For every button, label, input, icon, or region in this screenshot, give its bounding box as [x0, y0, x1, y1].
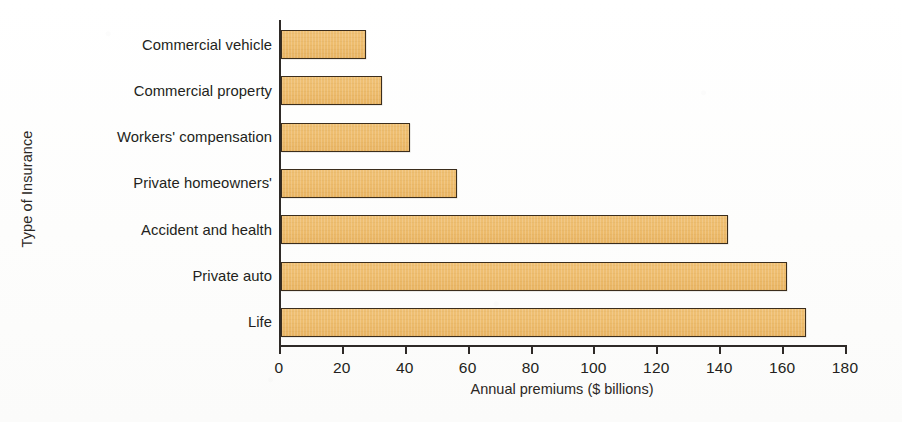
x-tick-20	[342, 345, 344, 354]
bar-commercial-property	[281, 76, 382, 105]
x-tick-40	[405, 345, 407, 354]
plot-area	[279, 20, 845, 345]
x-tick-160	[782, 345, 784, 354]
category-label-4: Accident and health	[40, 222, 272, 238]
bar-private-auto	[281, 262, 787, 291]
x-tick-label-80: 80	[501, 359, 561, 377]
bar-life	[281, 308, 806, 337]
x-tick-label-40: 40	[375, 359, 435, 377]
category-label-5: Private auto	[40, 268, 272, 284]
category-label-0: Commercial vehicle	[40, 37, 272, 53]
x-axis-title: Annual premiums ($ billions)	[279, 381, 845, 397]
x-tick-label-160: 160	[752, 359, 812, 377]
x-tick-140	[719, 345, 721, 354]
bar-accident-and-health	[281, 215, 728, 244]
category-label-1: Commercial property	[40, 83, 272, 99]
category-label-3: Private homeowners'	[40, 175, 272, 191]
x-tick-180	[845, 345, 847, 354]
x-tick-60	[468, 345, 470, 354]
x-axis: 020406080100120140160180	[279, 345, 845, 346]
x-tick-120	[656, 345, 658, 354]
x-tick-label-120: 120	[626, 359, 686, 377]
x-tick-80	[531, 345, 533, 354]
x-tick-0	[279, 345, 281, 354]
category-label-group: Commercial vehicleCommercial propertyWor…	[40, 20, 272, 342]
x-tick-100	[593, 345, 595, 354]
x-tick-label-60: 60	[438, 359, 498, 377]
x-tick-label-140: 140	[689, 359, 749, 377]
x-tick-label-100: 100	[563, 359, 623, 377]
bar-chart-figure: Type of Insurance Commercial vehicleComm…	[0, 0, 902, 422]
bar-workers-compensation	[281, 123, 410, 152]
category-label-6: Life	[40, 314, 272, 330]
bar-commercial-vehicle	[281, 30, 366, 59]
x-tick-label-20: 20	[312, 359, 372, 377]
x-tick-label-0: 0	[249, 359, 309, 377]
x-tick-label-180: 180	[815, 359, 875, 377]
category-label-2: Workers' compensation	[40, 129, 272, 145]
bar-private-homeowners	[281, 169, 457, 198]
x-axis-line	[279, 345, 845, 347]
